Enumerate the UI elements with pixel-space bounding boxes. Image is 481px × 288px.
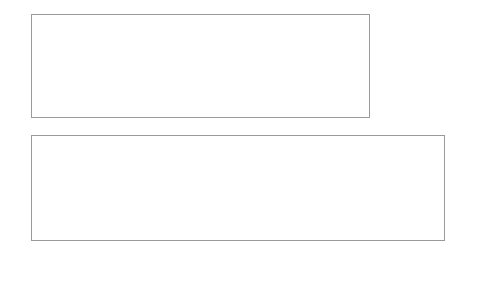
bottom-chart-panel bbox=[0, 125, 481, 288]
top-chart-plot-area bbox=[31, 14, 370, 118]
bottom-chart-plot-area bbox=[31, 135, 445, 241]
bottom-chart-series-layer bbox=[32, 136, 444, 240]
chart-figure bbox=[0, 0, 481, 288]
top-chart-panel bbox=[0, 0, 481, 125]
top-chart-series-layer bbox=[32, 15, 369, 117]
